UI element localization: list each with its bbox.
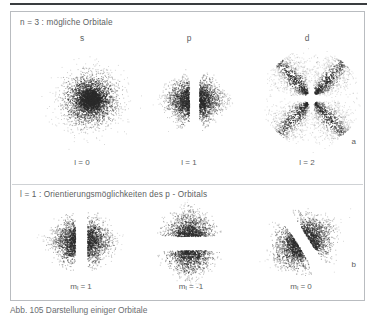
ml-sub-3: l — [297, 285, 298, 291]
top-divider-rule — [10, 3, 367, 5]
column-letter-p: p — [169, 33, 209, 43]
p-orbital-ml-plus1-icon — [33, 210, 129, 272]
panel-letter-a: a — [352, 137, 356, 146]
quantum-label-l2: l = 2 — [277, 158, 337, 167]
section-a-heading: n = 3 : mögliche Orbitale — [20, 18, 113, 27]
ml-sub-2: l — [186, 285, 187, 291]
figure-caption: Abb. 105 Darstellung einiger Orbitale — [10, 305, 147, 315]
p-orbital-dumbbell-horizontal-icon — [151, 67, 237, 133]
ml-sub-1: l — [77, 285, 78, 291]
quantum-label-l1: l = 1 — [159, 158, 219, 167]
column-letter-s: s — [62, 33, 102, 43]
p-orbital-ml-0-icon — [251, 206, 355, 278]
section-divider — [12, 184, 363, 185]
ml-prefix-3: m — [290, 282, 297, 291]
ml-prefix-2: m — [179, 282, 186, 291]
figure-panel: n = 3 : mögliche Orbitale s p d l = 0 l … — [10, 11, 365, 301]
section-b-orientations: l = 1 : Orientierungsmöglichkeiten des p… — [11, 186, 364, 300]
ml-prefix-1: m — [70, 282, 77, 291]
magnetic-label-ml-minus1: ml = -1 — [156, 282, 226, 291]
panel-letter-b: b — [352, 260, 356, 269]
magnetic-label-ml-plus1: ml = 1 — [46, 282, 116, 291]
quantum-label-l0: l = 0 — [52, 158, 112, 167]
p-orbital-ml-minus1-icon — [156, 198, 222, 288]
section-a-possible-orbitals: n = 3 : mögliche Orbitale s p d l = 0 l … — [11, 12, 364, 182]
ml-value-2: = -1 — [189, 282, 203, 291]
d-orbital-cloverleaf-icon — [257, 42, 365, 154]
ml-value-3: = 0 — [300, 282, 311, 291]
magnetic-label-ml-0: ml = 0 — [266, 282, 336, 291]
s-orbital-sphere-icon — [35, 45, 145, 153]
ml-value-1: = 1 — [80, 282, 91, 291]
